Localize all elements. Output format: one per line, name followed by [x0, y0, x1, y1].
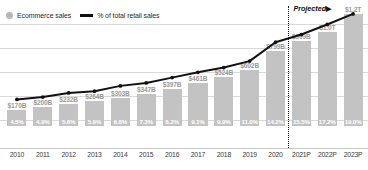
legend-label: % of total retail sales [97, 12, 159, 19]
bar: $461B9.1% [188, 83, 207, 126]
x-axis-tick-2021P: 2021P [288, 151, 314, 158]
bar: $303B6.8% [111, 98, 130, 126]
pct-value-label: 15.5% [293, 118, 310, 125]
legend-label: Ecommerce sales [17, 12, 71, 19]
pct-value-label: 4.9% [36, 118, 50, 125]
bar: $200B4.9% [33, 107, 52, 126]
x-axis-tick-2017: 2017 [185, 151, 211, 158]
pct-value-label: 11.0% [241, 118, 257, 125]
bar-value-label: $799B [266, 43, 285, 50]
chart-legend: Ecommerce sales % of total retail sales [6, 12, 159, 19]
x-axis-tick-2011: 2011 [30, 151, 56, 158]
line-swatch-icon [80, 14, 93, 17]
bar-column: $232B5.6% [56, 8, 82, 126]
bar-value-label: $1.0T [319, 24, 335, 31]
x-axis-line [0, 148, 368, 149]
pct-value-label: 5.6% [62, 118, 76, 125]
bar: $602B11.0% [240, 70, 259, 126]
bar-column: $303B6.8% [107, 8, 133, 126]
bar: $347B7.3% [137, 94, 156, 126]
bar-column: $799B14.2% [263, 8, 289, 126]
x-axis-tick-2015: 2015 [133, 151, 159, 158]
bar-column: $461B9.1% [185, 8, 211, 126]
bar-value-label: $303B [111, 90, 130, 97]
bar: $909B15.5% [292, 41, 311, 126]
x-axis-tick-2018: 2018 [211, 151, 237, 158]
bar-value-label: $170B [8, 102, 27, 109]
bar-column: $524B9.9% [211, 8, 237, 126]
bar: $264B5.9% [85, 101, 104, 126]
ecommerce-sales-chart: Ecommerce sales % of total retail sales … [0, 0, 368, 170]
pct-value-label: 9.9% [217, 118, 231, 125]
bar: $397B8.2% [163, 89, 182, 126]
bar-value-label: $347B [137, 86, 156, 93]
projected-annotation: Projected▶ [293, 4, 331, 13]
bar-column: $397B8.2% [159, 8, 185, 126]
projected-divider [288, 6, 289, 148]
bar-value-label: $602B [240, 62, 259, 69]
pct-value-label: 14.2% [267, 118, 284, 125]
pct-value-label: 9.1% [191, 118, 205, 125]
x-axis-tick-2022P: 2022P [314, 151, 340, 158]
bar-value-label: $397B [163, 81, 182, 88]
bar-column: $264B5.9% [82, 8, 108, 126]
bar-column: $909B15.5% [288, 8, 314, 126]
bar: $232B5.6% [59, 104, 78, 126]
bar: $799B14.2% [266, 51, 285, 126]
bar-value-label: $461B [189, 75, 208, 82]
x-axis-tick-labels: 2010201120122013201420152016201720182019… [4, 151, 366, 158]
bar-column: $1.2T19.0% [340, 8, 366, 126]
bar: $170B4.5% [7, 110, 26, 126]
bar: $1.2T19.0% [344, 14, 363, 126]
x-axis-tick-2013: 2013 [82, 151, 108, 158]
legend-item-ecommerce-sales: Ecommerce sales [6, 12, 71, 19]
projected-arrow-icon: ▶ [326, 5, 331, 12]
x-axis-tick-2010: 2010 [4, 151, 30, 158]
bar-column: $602B11.0% [237, 8, 263, 126]
bar-value-label: $264B [85, 93, 104, 100]
bar-column: $170B4.5% [4, 8, 30, 126]
x-axis-tick-2023P: 2023P [340, 151, 366, 158]
bar-value-label: $1.2T [345, 6, 361, 13]
pct-value-label: 5.9% [88, 118, 102, 125]
pct-value-label: 17.2% [319, 118, 336, 125]
x-axis-tick-2020: 2020 [263, 151, 289, 158]
pct-value-label: 4.5% [10, 118, 24, 125]
bar-column: $347B7.3% [133, 8, 159, 126]
bar-value-label: $524B [214, 69, 233, 76]
pct-value-label: 19.0% [345, 118, 362, 125]
bar-value-label: $909B [292, 33, 311, 40]
x-axis-tick-2014: 2014 [107, 151, 133, 158]
x-axis-tick-2016: 2016 [159, 151, 185, 158]
bar: $1.0T17.2% [318, 32, 337, 126]
bar-column: $1.0T17.2% [314, 8, 340, 126]
pct-value-label: 6.8% [114, 118, 128, 125]
legend-item-pct-total-retail: % of total retail sales [80, 12, 159, 19]
x-axis-tick-2012: 2012 [56, 151, 82, 158]
pct-value-label: 7.3% [139, 118, 153, 125]
plot-area: $170B4.5%$200B4.9%$232B5.6%$264B5.9%$303… [0, 0, 368, 148]
x-axis-tick-2019: 2019 [237, 151, 263, 158]
projected-label-text: Projected [293, 4, 326, 13]
circle-swatch-icon [6, 12, 13, 19]
bar-value-label: $232B [59, 96, 78, 103]
bar-column: $200B4.9% [30, 8, 56, 126]
bar-group: $170B4.5%$200B4.9%$232B5.6%$264B5.9%$303… [4, 8, 366, 126]
bar-value-label: $200B [33, 99, 52, 106]
pct-value-label: 8.2% [165, 118, 179, 125]
bar: $524B9.9% [214, 77, 233, 126]
